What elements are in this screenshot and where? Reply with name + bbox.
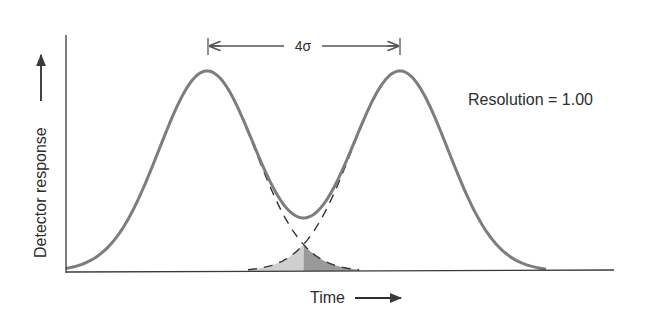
four-sigma-annotation: 4σ bbox=[208, 38, 400, 55]
y-axis-label: Detector response bbox=[32, 127, 49, 258]
y-axis-title: Detector response bbox=[32, 127, 49, 258]
overlap-fill bbox=[304, 245, 361, 272]
resolution-label: Resolution = 1.00 bbox=[468, 91, 593, 108]
overlap-fill bbox=[248, 245, 304, 271]
resolution-diagram: 4σ Resolution = 1.00 Detector response T… bbox=[0, 0, 649, 320]
x-axis-label: Time bbox=[310, 289, 345, 306]
four-sigma-label: 4σ bbox=[295, 38, 312, 54]
